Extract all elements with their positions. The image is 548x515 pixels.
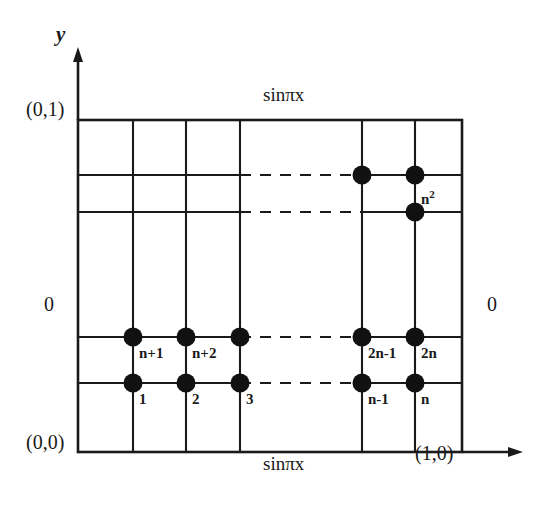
node-label-2n: 2n [421,346,437,361]
node-label-n-plus-2: n+2 [192,346,216,361]
domain-boundary-rect [78,120,462,452]
node-label-n-plus-1: n+1 [139,346,163,361]
y-axis-label: y [56,24,65,45]
boundary-label-right-zero: 0 [487,294,497,314]
boundary-label-top-sin: sinπx [263,85,304,104]
grid-node-1 [124,374,143,393]
grid-node-n-1 [353,374,372,393]
grid-diagram-canvas [0,0,548,515]
grid-node-2 [177,374,196,393]
node-label-3: 3 [246,392,254,407]
node-label-n-minus-1: n-1 [368,392,389,407]
corner-label-top-left: (0,1) [26,99,64,119]
node-label-n-squared: n2 [421,189,435,207]
grid-node-2n-minus-1 [353,328,372,347]
corner-label-bottom-left: (0,0) [26,432,64,452]
node-label-1: 1 [139,392,147,407]
grid-node-3 [231,374,250,393]
grid-node-n-squared [406,166,425,185]
grid-node-2n [406,328,425,347]
y-axis [73,47,83,120]
grid-node-n-plus-1 [124,328,143,347]
grid-node-n [406,374,425,393]
grid-node-row2-col3 [231,328,250,347]
node-label-n-squared-exponent: 2 [429,188,435,200]
boundary-label-left-zero: 0 [44,294,54,314]
corner-label-bottom-right: (1,0) [415,443,453,463]
figure-root: y (0,1) (0,0) (1,0) 0 0 sinπx sinπx 1 2 … [0,0,548,515]
grid-node-row6-col5 [353,166,372,185]
node-label-2n-minus-1: 2n-1 [368,346,396,361]
grid-node-n-plus-2 [177,328,196,347]
grid-lines-horizontal-solid [78,175,462,383]
grid-lines-horizontal-dashed [240,175,362,383]
node-label-n: n [421,392,429,407]
boundary-label-bottom-sin: sinπx [263,454,304,473]
x-axis [462,447,523,457]
node-label-2: 2 [192,392,200,407]
